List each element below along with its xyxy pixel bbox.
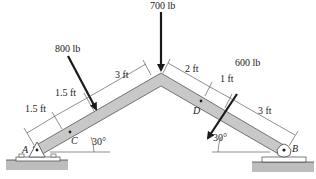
diagram-canvas: 700 lb 800 lb 600 lb 3 ft 1.5 ft 1.5 ft …	[0, 0, 316, 179]
dim-label-left-3ft: 3 ft	[115, 69, 129, 80]
dim-label-right-1ft: 1 ft	[220, 73, 234, 84]
point-c-marker	[69, 131, 72, 134]
angle-label-right: 30°	[213, 132, 227, 143]
dim-label-right-3ft: 3 ft	[258, 105, 272, 116]
point-label-d: D	[192, 105, 201, 116]
ground-left	[6, 160, 68, 170]
point-label-c: C	[71, 135, 78, 146]
point-d-marker	[200, 100, 203, 103]
load-label-700: 700 lb	[150, 0, 175, 11]
dim-label-right-2ft: 2 ft	[185, 63, 199, 74]
ground-right	[252, 162, 314, 172]
load-label-800: 800 lb	[55, 43, 80, 54]
point-label-a: A	[21, 144, 29, 155]
angle-label-left: 30°	[92, 136, 106, 147]
truss-frame-diagram: 700 lb 800 lb 600 lb 3 ft 1.5 ft 1.5 ft …	[0, 0, 316, 179]
dim-label-left-1-5ft-lower: 1.5 ft	[25, 103, 46, 114]
dim-label-left-1-5ft-upper: 1.5 ft	[55, 87, 76, 98]
load-label-600: 600 lb	[235, 57, 260, 68]
point-label-b: B	[292, 143, 298, 154]
